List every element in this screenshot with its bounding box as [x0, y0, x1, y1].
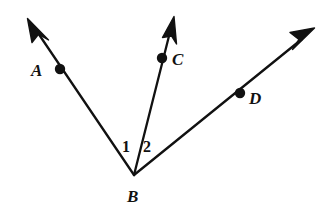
- ray-bd: [134, 28, 315, 175]
- ray-bc-arrowhead: [163, 17, 177, 45]
- point-label-c: C: [172, 51, 183, 68]
- angle-label-2: 2: [143, 139, 151, 155]
- point-dot-a: [55, 64, 65, 74]
- ray-bc: [134, 17, 177, 176]
- point-dot-c: [157, 53, 167, 63]
- point-dot-d: [235, 88, 245, 98]
- point-label-b: B: [127, 188, 138, 205]
- ray-ba-line: [38, 33, 134, 175]
- point-label-a: A: [31, 62, 42, 79]
- ray-ba-arrowhead: [28, 19, 49, 43]
- ray-ba: [28, 19, 135, 176]
- angle-label-1: 1: [122, 139, 130, 155]
- point-label-d: D: [249, 90, 261, 107]
- geometry-figure: A C D B 1 2: [0, 0, 330, 215]
- geometry-canvas: [0, 0, 330, 215]
- ray-bc-line: [134, 32, 170, 175]
